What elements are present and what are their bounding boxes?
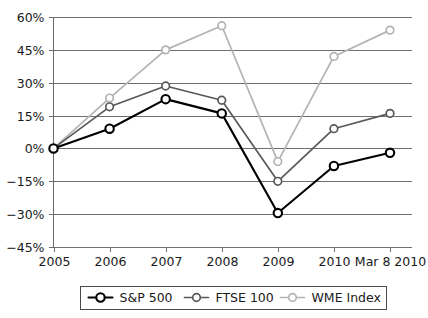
- data-point-marker: [386, 110, 394, 118]
- data-point-marker: [105, 125, 113, 133]
- y-axis-tick-label: 30%: [17, 76, 45, 91]
- legend-label: FTSE 100: [216, 290, 274, 305]
- line-chart: 60%45%30%15%0%−15%−30%−45% 2005200620072…: [0, 0, 428, 318]
- data-point-marker: [49, 144, 57, 152]
- y-axis-tick-label: −30%: [6, 207, 44, 222]
- data-point-marker: [218, 22, 226, 30]
- y-axis-tick-label: 45%: [17, 43, 45, 58]
- legend-marker-icon: [289, 294, 297, 302]
- y-axis-tick-label: 60%: [17, 10, 45, 25]
- data-point-marker: [161, 95, 169, 103]
- legend-label: WME Index: [312, 290, 381, 305]
- y-axis-tick-label: 15%: [17, 109, 45, 124]
- data-point-marker: [162, 82, 170, 90]
- x-axis-tick-label: 2007: [151, 254, 183, 269]
- x-axis-tick-label: 2009: [263, 254, 295, 269]
- data-point-marker: [218, 96, 226, 104]
- data-point-marker: [162, 46, 170, 54]
- data-point-marker: [218, 109, 226, 117]
- x-axis-tick-label: 2010: [319, 254, 351, 269]
- data-point-marker: [106, 103, 114, 111]
- data-point-marker: [274, 209, 282, 217]
- x-axis-tick-label: 2006: [95, 254, 127, 269]
- x-axis-tick-labels: 200520062007200820092010Mar 8 2010: [39, 254, 427, 269]
- legend-items: S&P 500FTSE 100WME Index: [89, 290, 381, 305]
- legend-marker-icon: [96, 293, 104, 301]
- data-point-marker: [274, 177, 282, 185]
- chart-legend: S&P 500FTSE 100WME Index: [81, 287, 387, 310]
- data-point-marker: [386, 26, 394, 34]
- legend-marker-icon: [193, 294, 201, 302]
- y-axis-tick-label: 0%: [25, 141, 45, 156]
- y-axis-tick-label: −15%: [6, 174, 44, 189]
- legend-label: S&P 500: [120, 290, 173, 305]
- data-point-marker: [330, 125, 338, 133]
- chart-svg: 60%45%30%15%0%−15%−30%−45% 2005200620072…: [0, 0, 428, 318]
- data-point-marker: [386, 149, 394, 157]
- x-axis-tick-label: Mar 8 2010: [355, 254, 426, 269]
- data-point-marker: [106, 94, 114, 102]
- x-axis-tick-label: 2005: [39, 254, 71, 269]
- x-axis-tick-label: 2008: [207, 254, 239, 269]
- data-point-marker: [330, 162, 338, 170]
- y-axis-tick-label: −45%: [6, 240, 44, 255]
- data-point-marker: [274, 158, 282, 166]
- data-point-marker: [330, 53, 338, 61]
